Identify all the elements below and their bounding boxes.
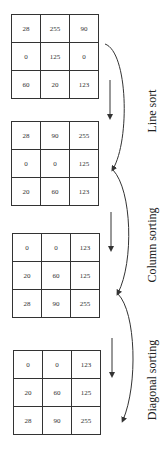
step-label-line-sort: Line sort [145,90,160,133]
step-label-column-sorting: Column sorting [145,207,160,282]
arrows-layer [0,0,165,449]
curved-arrow-icon [118,294,133,420]
step-label-diagonal-sorting: Diagonal sorting [145,340,160,420]
curved-arrow-icon [105,44,124,169]
curved-arrow-icon [113,170,129,293]
